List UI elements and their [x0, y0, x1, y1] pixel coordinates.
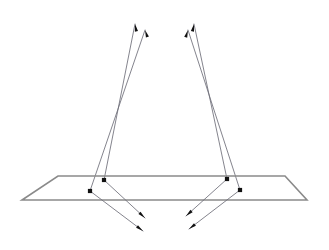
node-right-near: [238, 188, 242, 192]
node-right-far: [225, 177, 229, 181]
node-left-near: [88, 189, 92, 193]
tip-up-left-a: [135, 24, 138, 32]
plane-surface-fill: [22, 176, 307, 200]
ray-up-left-a: [104, 24, 135, 180]
tip-up-right-b: [184, 30, 188, 38]
ray-up-right-a: [194, 24, 227, 179]
ray-up-left-b: [90, 30, 145, 191]
diagram-canvas: [0, 0, 329, 250]
node-left-far: [102, 178, 106, 182]
upward-ray-group: [90, 24, 240, 191]
tip-up-left-b: [145, 30, 149, 38]
vector-plane-diagram: [0, 0, 329, 250]
ray-up-right-b: [188, 30, 240, 190]
tip-up-right-a: [191, 24, 194, 32]
